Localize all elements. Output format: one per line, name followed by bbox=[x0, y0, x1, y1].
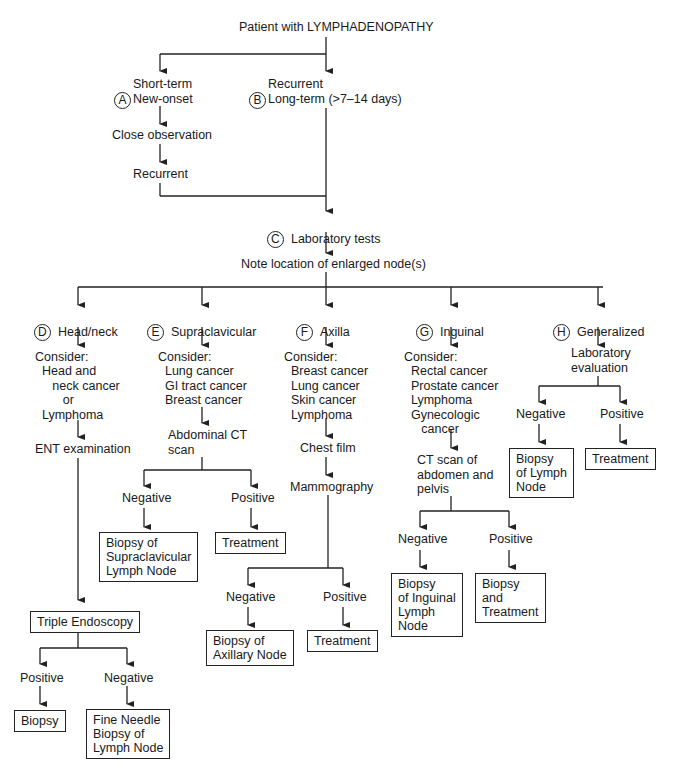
axilla-node: FAxilla bbox=[289, 309, 350, 341]
inguinal-positive-label: Positive bbox=[489, 532, 533, 547]
flowchart-title: Patient with LYMPHADENOPATHY bbox=[239, 20, 434, 35]
inguinal-negative-label: Negative bbox=[398, 532, 447, 547]
ent-examination-step: ENT examination bbox=[35, 442, 131, 457]
step-letter-b: B bbox=[249, 92, 266, 109]
inguinal-node: GInguinal bbox=[409, 309, 484, 341]
generalized-node: HGeneralized bbox=[546, 309, 644, 341]
recurrent-step: Recurrent bbox=[133, 167, 188, 182]
inguinal-consider-list: Rectal cancer Prostate cancer Lymphoma G… bbox=[404, 364, 499, 437]
axilla-label: Axilla bbox=[320, 325, 350, 339]
biopsy-supraclavicular-box: Biopsy of Supraclavicular Lymph Node bbox=[99, 532, 198, 582]
mammography-step: Mammography bbox=[290, 480, 373, 495]
biopsy-box: Biopsy bbox=[14, 710, 66, 732]
axilla-consider-heading: Consider: bbox=[284, 350, 338, 365]
step-letter-c: C bbox=[267, 231, 284, 248]
head-neck-negative-label: Negative bbox=[104, 671, 153, 686]
biopsy-inguinal-box: Biopsy of Inguinal Lymph Node bbox=[391, 573, 463, 637]
axilla-treatment-box: Treatment bbox=[307, 630, 378, 652]
supraclavicular-consider-heading: Consider: bbox=[158, 350, 212, 365]
head-neck-consider-heading: Consider: bbox=[35, 350, 89, 365]
generalized-negative-label: Negative bbox=[516, 407, 565, 422]
laboratory-tests-label: Laboratory tests bbox=[291, 232, 381, 246]
supraclavicular-positive-label: Positive bbox=[231, 491, 275, 506]
biopsy-axillary-box: Biopsy of Axillary Node bbox=[206, 630, 294, 666]
generalized-label: Generalized bbox=[577, 325, 644, 339]
triple-endoscopy-box: Triple Endoscopy bbox=[30, 611, 140, 633]
axilla-positive-label: Positive bbox=[323, 590, 367, 605]
lymphadenopathy-flowchart: Patient with LYMPHADENOPATHY AShort-term… bbox=[0, 0, 676, 778]
head-neck-node: DHead/neck bbox=[27, 309, 118, 341]
head-neck-consider-list: Head and neck cancer or Lymphoma bbox=[35, 364, 120, 422]
note-location-step: Note location of enlarged node(s) bbox=[241, 257, 426, 272]
chest-film-step: Chest film bbox=[300, 441, 356, 456]
close-observation-step: Close observation bbox=[112, 128, 212, 143]
step-letter-e: E bbox=[147, 324, 164, 341]
step-letter-d: D bbox=[34, 324, 51, 341]
axilla-consider-list: Breast cancer Lung cancer Skin cancer Ly… bbox=[284, 364, 368, 422]
branch-b-node: BRecurrent Long-term (>7–14 days) bbox=[242, 77, 273, 109]
inguinal-consider-heading: Consider: bbox=[404, 350, 458, 365]
supraclavicular-label: Supraclavicular bbox=[171, 325, 256, 339]
supraclavicular-node: ESupraclavicular bbox=[140, 309, 256, 341]
axilla-negative-label: Negative bbox=[226, 590, 275, 605]
step-letter-g: G bbox=[416, 324, 433, 341]
supraclavicular-treatment-box: Treatment bbox=[215, 532, 286, 554]
ct-abdomen-pelvis-step: CT scan of abdomen and pelvis bbox=[417, 453, 493, 497]
step-letter-a: A bbox=[114, 92, 131, 109]
laboratory-evaluation-step: Laboratory evaluation bbox=[571, 346, 631, 375]
branch-a-label: Short-term New-onset bbox=[133, 77, 193, 106]
branch-a-node: AShort-term New-onset bbox=[107, 77, 138, 109]
supraclavicular-consider-list: Lung cancer GI tract cancer Breast cance… bbox=[158, 364, 247, 408]
abdominal-ct-step: Abdominal CT scan bbox=[168, 428, 247, 457]
supraclavicular-negative-label: Negative bbox=[122, 491, 171, 506]
step-letter-h: H bbox=[553, 324, 570, 341]
fine-needle-biopsy-box: Fine Needle Biopsy of Lymph Node bbox=[86, 709, 170, 759]
generalized-positive-label: Positive bbox=[600, 407, 644, 422]
inguinal-label: Inguinal bbox=[440, 325, 484, 339]
branch-b-label: Recurrent Long-term (>7–14 days) bbox=[268, 77, 402, 106]
biopsy-lymph-node-box: Biopsy of Lymph Node bbox=[509, 448, 574, 498]
biopsy-and-treatment-box: Biopsy and Treatment bbox=[475, 573, 546, 623]
laboratory-tests-node: CLaboratory tests bbox=[260, 216, 381, 248]
generalized-treatment-box: Treatment bbox=[585, 448, 656, 470]
head-neck-positive-label: Positive bbox=[20, 671, 64, 686]
step-letter-f: F bbox=[296, 324, 313, 341]
head-neck-label: Head/neck bbox=[58, 325, 118, 339]
